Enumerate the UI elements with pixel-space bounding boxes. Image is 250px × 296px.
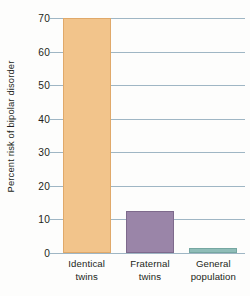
plot-area [55, 18, 245, 253]
y-tick-label-30: 30 [38, 147, 50, 158]
y-tick-mark-40 [50, 119, 55, 120]
x-label-line: twins [55, 271, 118, 284]
y-tick-mark-0 [50, 253, 55, 254]
x-label-line: twins [118, 271, 181, 284]
x-label-general-population: Generalpopulation [182, 258, 245, 283]
bar-identical-twins [63, 18, 111, 253]
y-axis-title: Percent risk of bipolar disorder [0, 0, 22, 253]
x-label-line: Identical [55, 258, 118, 271]
y-tick-mark-20 [50, 186, 55, 187]
x-label-fraternal-twins: Fraternaltwins [118, 258, 181, 283]
y-axis-title-text: Percent risk of bipolar disorder [6, 61, 17, 193]
y-tick-label-20: 20 [38, 180, 50, 191]
y-tick-mark-10 [50, 219, 55, 220]
x-label-line: General [182, 258, 245, 271]
y-tick-label-50: 50 [38, 80, 50, 91]
y-tick-label-70: 70 [38, 13, 50, 24]
y-tick-label-60: 60 [38, 46, 50, 57]
y-axis-tick-labels: 010203040506070 [22, 0, 52, 296]
bar-fraternal-twins [126, 211, 174, 253]
bar-chart: Percent risk of bipolar disorder 0102030… [0, 0, 250, 296]
x-label-identical-twins: Identicaltwins [55, 258, 118, 283]
bar-general-population [189, 248, 237, 253]
y-tick-mark-60 [50, 52, 55, 53]
y-tick-mark-50 [50, 85, 55, 86]
gridline-0 [55, 253, 245, 254]
x-label-line: population [182, 271, 245, 284]
x-axis-tick-labels: IdenticaltwinsFraternaltwinsGeneralpopul… [55, 258, 245, 296]
y-tick-mark-30 [50, 152, 55, 153]
y-tick-label-10: 10 [38, 214, 50, 225]
x-label-line: Fraternal [118, 258, 181, 271]
y-tick-label-40: 40 [38, 113, 50, 124]
y-tick-mark-70 [50, 18, 55, 19]
